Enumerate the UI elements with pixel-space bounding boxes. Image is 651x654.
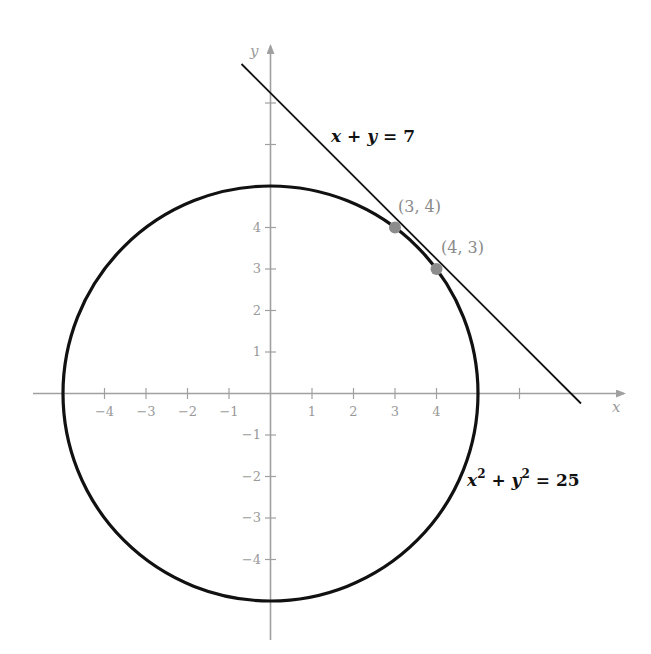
x-axis: −4 −3 −2 −1 1 2 3 4 x xyxy=(33,388,624,419)
y-axis-label: y xyxy=(249,42,259,60)
tangent-line xyxy=(242,64,582,404)
line-equation-label: x + y = 7 xyxy=(330,126,415,146)
x-tick-label: 3 xyxy=(391,404,399,419)
x-tick-label: −4 xyxy=(95,404,114,419)
intersection-point-4-3 xyxy=(431,263,443,275)
y-tick-label: −3 xyxy=(242,510,261,525)
point-label-3-4: (3, 4) xyxy=(398,197,441,216)
y-tick-label: 1 xyxy=(253,344,261,359)
x-axis-label: x xyxy=(612,398,621,416)
graph-canvas: −4 −3 −2 −1 1 2 3 4 x 4 3 2 1 −1 −2 −3 −… xyxy=(0,0,651,654)
x-tick-label: −3 xyxy=(136,404,155,419)
y-tick-label: 3 xyxy=(253,261,261,276)
x-tick-label: 4 xyxy=(432,404,440,419)
y-tick-label: −1 xyxy=(242,427,261,442)
x-tick-label: 1 xyxy=(308,404,316,419)
y-tick-label: −2 xyxy=(242,469,261,484)
y-axis: 4 3 2 1 −1 −2 −3 −4 y xyxy=(242,42,276,640)
y-tick-label: 4 xyxy=(253,220,261,235)
x-tick-label: −1 xyxy=(219,404,238,419)
circle-equation-label: x2 + y2 = 25 xyxy=(466,467,580,490)
y-tick-label: −4 xyxy=(242,552,261,567)
x-tick-label: −2 xyxy=(178,404,197,419)
y-tick-label: 2 xyxy=(253,303,261,318)
point-label-4-3: (4, 3) xyxy=(441,238,484,257)
intersection-point-3-4 xyxy=(389,222,401,234)
x-tick-label: 2 xyxy=(349,404,357,419)
